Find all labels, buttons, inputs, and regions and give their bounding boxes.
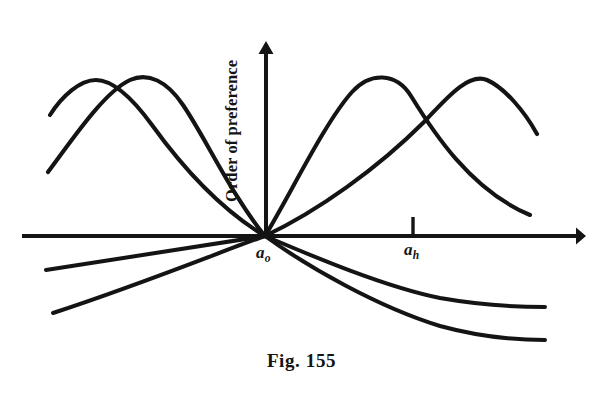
y-axis-label-text: Order of preference xyxy=(224,52,241,202)
figure-container: Order of preference ao ah Fig. 155 xyxy=(0,0,603,398)
curve-monotone-left-upper xyxy=(46,236,265,270)
curve-monotone-left-lower xyxy=(53,236,265,313)
curve-single-peaked-right-inner xyxy=(265,77,530,236)
x-axis-arrow-icon xyxy=(576,228,586,245)
figure-caption: Fig. 155 xyxy=(0,350,603,372)
y-axis-label: Order of preference xyxy=(224,0,241,52)
preference-curves-plot xyxy=(0,0,603,398)
y-axis-arrow-icon xyxy=(259,41,274,54)
label-a-h-var: a xyxy=(404,240,413,259)
label-a-origin-var: a xyxy=(256,243,265,262)
label-a-h: ah xyxy=(404,241,419,261)
curve-single-peaked-right-outer xyxy=(265,79,537,236)
label-a-origin: ao xyxy=(256,244,271,264)
label-a-origin-subscript: o xyxy=(265,252,271,264)
label-a-h-subscript: h xyxy=(413,249,419,261)
